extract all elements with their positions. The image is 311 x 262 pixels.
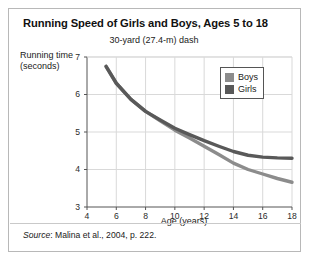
y-tick-label: 3 <box>66 202 80 212</box>
x-tick-label: 18 <box>285 211 299 221</box>
legend-label-girls: Girls <box>238 84 257 94</box>
source-lead: Source <box>23 230 50 240</box>
source-rest: : Malina et al., 2004, p. 222. <box>50 230 156 240</box>
legend-swatch-boys <box>225 73 234 82</box>
source-note: Source: Malina et al., 2004, p. 222. <box>23 230 156 240</box>
legend-item-girls: Girls <box>225 83 258 95</box>
source-divider <box>10 223 301 224</box>
x-axis-label: Age (years) <box>89 216 279 226</box>
figure-container: Running Speed of Girls and Boys, Ages 5 … <box>8 8 301 252</box>
chart-legend: Boys Girls <box>220 67 264 99</box>
y-tick-label: 4 <box>66 164 80 174</box>
legend-swatch-girls <box>225 85 234 94</box>
legend-label-boys: Boys <box>238 72 258 82</box>
y-tick-label: 5 <box>66 127 80 137</box>
legend-item-boys: Boys <box>225 71 258 83</box>
y-tick-label: 7 <box>66 52 80 62</box>
y-tick-label: 6 <box>66 89 80 99</box>
